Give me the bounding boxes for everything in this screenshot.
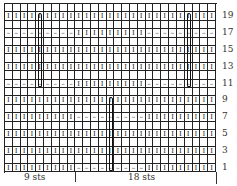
chart-cell: I: [52, 63, 60, 71]
chart-cell: [146, 71, 154, 79]
chart-cell: –: [122, 113, 130, 121]
chart-cell: [208, 88, 216, 96]
chart-cell: [153, 21, 161, 29]
chart-cell: [130, 21, 138, 29]
chart-cell: [44, 155, 52, 163]
chart-cell: I: [83, 80, 91, 88]
chart-cell: I: [114, 80, 122, 88]
chart-cell: [200, 71, 208, 79]
chart-cell: [91, 155, 99, 163]
chart-cell: [193, 88, 201, 96]
chart-cell: I: [185, 96, 193, 104]
chart-cell: [153, 4, 161, 12]
chart-cell: –: [138, 164, 146, 172]
chart-cell: [60, 71, 68, 79]
chart-cell: [208, 54, 216, 62]
chart-cell: I: [75, 80, 83, 88]
chart-cell: [200, 88, 208, 96]
row-number-label: 13: [222, 61, 233, 71]
chart-cell: –: [83, 113, 91, 121]
chart-cell: [75, 71, 83, 79]
chart-cell: –: [83, 164, 91, 172]
chart-cell: [200, 4, 208, 12]
chart-cell: [83, 38, 91, 46]
chart-cell: [44, 71, 52, 79]
chart-cell: [114, 122, 122, 130]
chart-cell: [83, 105, 91, 113]
chart-cell: I: [138, 130, 146, 138]
chart-cell: [68, 38, 76, 46]
chart-cell: I: [99, 130, 107, 138]
chart-cell: –: [208, 80, 216, 88]
chart-cell: [21, 38, 29, 46]
chart-cell: I: [91, 12, 99, 20]
chart-cell: I: [21, 113, 29, 121]
chart-cell: [185, 122, 193, 130]
chart-cell: [130, 38, 138, 46]
chart-cell: [13, 21, 21, 29]
chart-cell: [83, 71, 91, 79]
chart-cell: [177, 88, 185, 96]
chart-cell: [13, 54, 21, 62]
chart-cell: I: [122, 147, 130, 155]
chart-cell: –: [75, 164, 83, 172]
chart-cell: I: [5, 46, 13, 54]
chart-cell: I: [200, 147, 208, 155]
chart-cell: [28, 105, 36, 113]
chart-cell: [60, 122, 68, 130]
chart-cell: I: [28, 96, 36, 104]
chart-cell: [28, 122, 36, 130]
chart-cell: I: [52, 130, 60, 138]
chart-cell: [138, 54, 146, 62]
chart-cell: I: [83, 12, 91, 20]
chart-cell: [193, 122, 201, 130]
chart-cell: I: [28, 113, 36, 121]
chart-cell: [60, 88, 68, 96]
chart-cell: [83, 54, 91, 62]
chart-cell: [122, 4, 130, 12]
chart-cell: I: [75, 96, 83, 104]
chart-cell: I: [68, 147, 76, 155]
chart-cell: [52, 155, 60, 163]
repeat-divider-left: [75, 172, 76, 182]
chart-cell: I: [91, 80, 99, 88]
chart-cell: [138, 122, 146, 130]
chart-cell: [208, 138, 216, 146]
chart-cell: [153, 105, 161, 113]
chart-cell: [208, 21, 216, 29]
chart-cell: –: [193, 80, 201, 88]
chart-cell: [68, 155, 76, 163]
chart-cell: I: [169, 130, 177, 138]
chart-cell: [75, 4, 83, 12]
chart-cell: [75, 54, 83, 62]
chart-cell: I: [75, 130, 83, 138]
chart-cell: [52, 88, 60, 96]
chart-cell: –: [21, 80, 29, 88]
chart-cell: [146, 155, 154, 163]
row-number-label: 11: [222, 78, 233, 88]
chart-cell: I: [200, 63, 208, 71]
chart-cell: I: [83, 63, 91, 71]
chart-cell: [60, 54, 68, 62]
chart-cell: [161, 4, 169, 12]
chart-cell: I: [5, 164, 13, 172]
cable-needle-icon: [109, 97, 113, 171]
chart-cell: I: [83, 96, 91, 104]
chart-cell: I: [28, 63, 36, 71]
chart-cell: [130, 138, 138, 146]
chart-cell: [83, 4, 91, 12]
chart-cell: I: [44, 46, 52, 54]
chart-cell: [75, 21, 83, 29]
chart-cell: I: [68, 96, 76, 104]
chart-cell: [153, 38, 161, 46]
chart-cell: [52, 21, 60, 29]
chart-cell: [177, 4, 185, 12]
chart-cell: I: [208, 147, 216, 155]
chart-cell: [138, 155, 146, 163]
chart-cell: I: [99, 63, 107, 71]
chart-cell: [60, 4, 68, 12]
chart-cell: [146, 54, 154, 62]
chart-cell: I: [91, 130, 99, 138]
chart-cell: [114, 38, 122, 46]
chart-cell: I: [60, 46, 68, 54]
